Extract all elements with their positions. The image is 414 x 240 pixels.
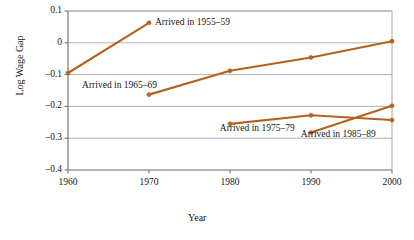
data-point (147, 93, 151, 97)
y-tick-label: 0 (28, 38, 62, 48)
y-tick-label: –0.3 (28, 133, 62, 143)
x-tick-label: 2000 (372, 178, 412, 188)
data-point (390, 104, 394, 108)
chart-figure: Log Wage Gap Year 0.10–0.1–0.2–0.3–0.4 1… (0, 0, 414, 240)
series-annotation: Arrived in 1985–89 (301, 129, 376, 139)
x-tick-label: 1980 (210, 178, 250, 188)
x-tick-label: 1970 (129, 178, 169, 188)
data-point (147, 21, 151, 25)
data-point (390, 39, 394, 43)
data-point (228, 69, 232, 73)
axis-ticks (65, 11, 393, 174)
axis-lines (68, 11, 392, 170)
x-tick-label: 1960 (48, 178, 88, 188)
series-lines (68, 23, 392, 133)
series-annotation: Arrived in 1955–59 (155, 17, 230, 27)
y-tick-label: –0.2 (28, 101, 62, 111)
gridlines (68, 11, 392, 138)
chart-plot-area (0, 0, 414, 240)
series-line (68, 23, 149, 73)
y-tick-label: –0.4 (28, 165, 62, 175)
y-axis-title: Log Wage Gap (14, 11, 25, 121)
x-tick-label: 1990 (291, 178, 331, 188)
data-point (66, 71, 70, 75)
data-point (390, 118, 394, 122)
series-annotation: Arrived in 1965–69 (82, 80, 157, 90)
series-line (149, 41, 392, 94)
x-axis-title: Year (188, 212, 206, 223)
data-point (309, 55, 313, 59)
data-point (309, 113, 313, 117)
y-tick-label: –0.1 (28, 70, 62, 80)
series-annotation: Arrived in 1975–79 (220, 123, 295, 133)
y-tick-label: 0.1 (28, 6, 62, 16)
